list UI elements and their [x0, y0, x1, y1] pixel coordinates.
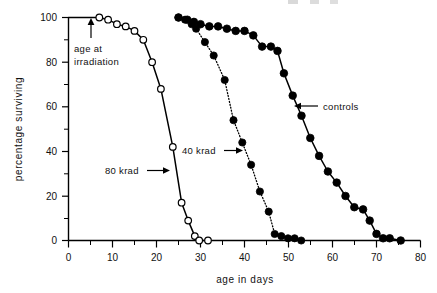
y-axis-ticks: [62, 18, 69, 241]
x-tick-label-10: 10: [107, 252, 119, 263]
data-point: [223, 25, 231, 33]
x-tick-label-40: 40: [239, 252, 251, 263]
annotation-controls: controls: [294, 101, 359, 112]
y-tick-label-0: 0: [51, 235, 57, 246]
figure-container: ​ 100 80 60 40: [0, 0, 437, 293]
y-tick-label-20: 20: [46, 191, 58, 202]
data-point: [241, 27, 249, 35]
x-tick-label-80: 80: [415, 252, 427, 263]
data-point: [250, 32, 258, 40]
scan-artifact-2: [310, 0, 319, 4]
data-point: [206, 23, 214, 31]
y-tick-label-40: 40: [46, 146, 58, 157]
data-point: [278, 233, 285, 240]
data-point: [359, 206, 367, 214]
annotation-age-line2: irradiation: [74, 56, 119, 67]
y-tick-label-100: 100: [40, 12, 57, 23]
survival-curve-chart: ​ 100 80 60 40: [0, 0, 437, 293]
data-point: [239, 139, 246, 146]
data-point: [258, 43, 266, 51]
right-arrow-head-40: [236, 147, 243, 154]
data-point: [221, 76, 228, 83]
data-point: [140, 37, 147, 44]
data-point: [201, 39, 208, 46]
x-axis-ticks: [69, 241, 421, 248]
data-point: [289, 92, 297, 100]
data-point: [230, 117, 237, 124]
annotation-age-at-irradiation: age at irradiation: [74, 18, 119, 67]
data-point: [122, 23, 129, 30]
data-point: [196, 237, 203, 244]
series-40-krad-line: [179, 18, 302, 241]
data-point: [197, 20, 205, 28]
label-controls: controls: [323, 101, 359, 112]
data-point: [274, 47, 282, 55]
data-point: [175, 14, 183, 22]
data-point: [271, 230, 278, 237]
x-axis-tick-labels: 0 10 20 30 40 50 60 70 80: [66, 252, 427, 263]
scan-artifact-3: [330, 0, 338, 4]
data-point: [256, 188, 263, 195]
data-point: [232, 27, 240, 35]
annotation-80-krad: 80 krad: [105, 165, 170, 176]
data-point: [373, 230, 381, 238]
data-point: [265, 208, 272, 215]
data-point: [214, 23, 222, 31]
series-40-krad: [175, 14, 305, 244]
data-point: [248, 161, 255, 168]
x-tick-label-20: 20: [151, 252, 163, 263]
data-point: [333, 179, 341, 187]
data-point: [307, 134, 315, 142]
data-point: [298, 112, 306, 120]
data-point: [351, 203, 359, 211]
annotation-age-line1: age at: [74, 43, 102, 54]
x-tick-label-50: 50: [283, 252, 295, 263]
y-axis-title: percentage surviving: [13, 77, 24, 181]
data-point: [280, 70, 288, 78]
data-point: [342, 192, 350, 200]
y-tick-label-80: 80: [46, 57, 58, 68]
data-point: [114, 21, 121, 28]
data-point: [185, 217, 192, 224]
data-point: [96, 14, 103, 21]
annotation-40-krad: 40 krad: [182, 145, 243, 156]
data-point: [149, 59, 156, 66]
x-tick-label-30: 30: [195, 252, 207, 263]
data-point: [178, 199, 185, 206]
y-tick-label-60: 60: [46, 101, 58, 112]
x-axis-title: age in days: [216, 274, 274, 285]
scan-artifact-1: [288, 0, 298, 4]
data-point: [105, 16, 112, 23]
data-point: [298, 237, 305, 244]
axes: [69, 17, 421, 241]
data-point: [386, 235, 394, 243]
x-tick-label-60: 60: [327, 252, 339, 263]
data-point: [170, 144, 177, 151]
data-point: [267, 43, 275, 51]
label-40-krad: 40 krad: [182, 145, 216, 156]
up-arrow-head: [88, 18, 95, 25]
y-axis-tick-labels: 100 80 60 40 20 0: [40, 12, 57, 246]
data-point: [324, 168, 332, 176]
data-point: [366, 217, 374, 225]
x-tick-label-70: 70: [371, 252, 383, 263]
data-point: [210, 52, 217, 59]
data-point: [397, 237, 405, 245]
series-controls-line: [179, 18, 401, 241]
right-arrow-head-80: [163, 167, 170, 174]
x-tick-label-0: 0: [66, 252, 72, 263]
data-point: [315, 152, 323, 160]
data-point: [205, 237, 212, 244]
label-80-krad: 80 krad: [105, 165, 139, 176]
data-point: [131, 28, 138, 35]
data-point: [291, 235, 298, 242]
data-point: [158, 86, 165, 93]
data-point: [284, 235, 291, 242]
